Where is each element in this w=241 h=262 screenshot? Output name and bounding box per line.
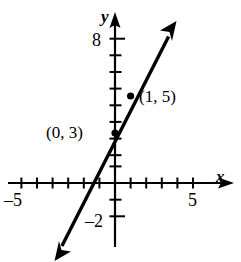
point-marker-1-5 [127,92,134,99]
coordinate-plane [0,0,241,262]
point-label-1-5: (1, 5) [139,88,176,105]
graph-figure: y x 8 –2 5 –5 (0, 3) (1, 5) [0,0,241,262]
point-label-0-3: (0, 3) [46,124,83,141]
point-marker-0-3 [111,129,118,136]
x-tick-label-negative-5: –5 [4,191,22,209]
y-tick-label-8: 8 [92,31,101,49]
y-tick-label-negative-2: –2 [85,212,103,230]
y-axis-label: y [101,8,109,25]
x-axis-label: x [216,168,225,185]
x-tick-label-5: 5 [188,191,197,209]
